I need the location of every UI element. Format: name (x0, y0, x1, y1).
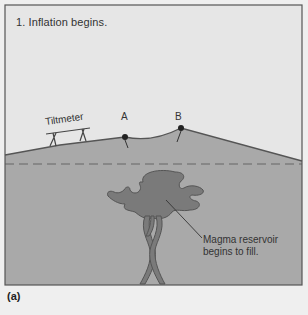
callout-line-1: Magma reservoir (203, 234, 278, 246)
step-title: 1. Inflation begins. (16, 16, 107, 28)
callout-line-2: begins to fill. (203, 246, 278, 258)
volcano-inflation-diagram: 1. Inflation begins. Tiltmeter A B Magma… (0, 0, 308, 315)
point-a-label: A (121, 111, 128, 122)
panel-label: (a) (7, 290, 20, 302)
magma-callout: Magma reservoir begins to fill. (203, 234, 278, 258)
point-b-label: B (175, 111, 182, 122)
diagram-canvas (0, 0, 308, 315)
